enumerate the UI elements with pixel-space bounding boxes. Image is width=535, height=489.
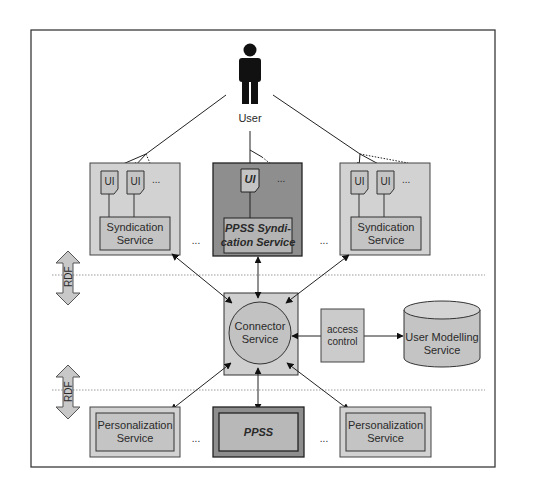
svg-text:Service: Service [117,234,154,246]
gap-ellipsis: ... [192,433,200,444]
syndication-group-right[interactable]: UI UI ... Syndication Service [340,163,430,255]
access-control-box[interactable]: access control [321,309,364,362]
svg-text:UI: UI [105,176,115,187]
svg-text:UI: UI [381,176,391,187]
svg-text:Service: Service [117,432,154,444]
svg-text:User Modelling: User Modelling [405,331,478,343]
svg-text:RDF: RDF [63,381,74,402]
svg-text:PPSS: PPSS [244,426,274,438]
personalization-service-right[interactable]: Personalization Service [340,407,431,457]
ui-widget[interactable]: UI [127,171,144,194]
svg-text:UI: UI [355,176,365,187]
svg-text:Service: Service [367,432,404,444]
ui-widget[interactable]: UI [241,169,259,192]
gap-ellipsis: ... [320,235,328,246]
ui-widget[interactable]: UI [101,171,118,194]
svg-text:Service: Service [424,344,461,356]
svg-text:Personalization: Personalization [97,419,172,431]
svg-text:access: access [327,324,358,335]
user-label: User [238,112,262,124]
svg-text:Syndication: Syndication [358,221,415,233]
svg-text:control: control [327,336,357,347]
ppss-box[interactable]: PPSS [213,407,304,457]
ui-widget[interactable]: UI [351,171,368,194]
svg-text:Service: Service [368,234,405,246]
svg-text:Personalization: Personalization [348,419,423,431]
syndication-group-left[interactable]: UI UI ... Syndication Service [90,163,180,255]
gap-ellipsis: ... [320,433,328,444]
more-ui-ellipsis: ... [402,174,410,185]
gap-ellipsis: ... [192,235,200,246]
user-modelling-service[interactable]: User Modelling Service [404,301,480,367]
svg-text:PPSS Syndi-: PPSS Syndi- [225,222,291,234]
svg-text:UI: UI [131,176,141,187]
svg-text:Service: Service [242,333,279,345]
more-ui-ellipsis: ... [152,174,160,185]
svg-text:Connector: Connector [235,320,286,332]
architecture-diagram: User UI UI ... Syndication Service ... [0,0,535,489]
personalization-service-left[interactable]: Personalization Service [90,407,180,457]
svg-text:UI: UI [245,173,257,185]
more-ui-ellipsis: ... [277,173,285,184]
svg-text:cation Service: cation Service [221,236,296,248]
ppss-syndication-group[interactable]: UI ... PPSS Syndi- cation Service [213,163,302,256]
svg-text:Syndication: Syndication [107,221,164,233]
ui-widget[interactable]: UI [377,171,394,194]
svg-text:RDF: RDF [63,266,74,287]
connector-service[interactable]: Connector Service [224,293,298,375]
